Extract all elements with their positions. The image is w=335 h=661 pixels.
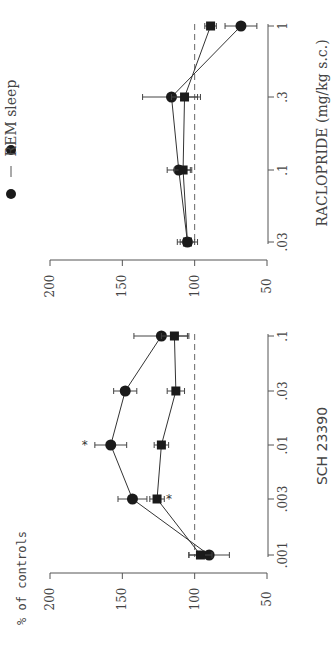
square-marker-icon [206,22,215,31]
circle-marker-icon [120,386,131,397]
legend-label: REM sleep [3,80,19,157]
square-marker-icon [171,387,180,396]
value-tick-label: 50 [260,591,274,606]
sch-axis-title: SCH 23390 [314,407,330,485]
square-marker-icon [180,93,189,102]
dose-tick-label: .1 [276,164,290,175]
raclopride-axis-title: RACLOPRIDE (mg/kg s.c.) [314,39,330,226]
square-marker-icon [157,441,166,450]
circle-marker-icon [235,21,246,32]
value-tick-label: 150 [115,275,129,298]
square-marker-icon [170,332,179,341]
legend-marker-icon [6,189,16,199]
sch23390-panel: 20015010050.001.003.01.03.1** [43,330,290,610]
circle-marker-icon [105,440,116,451]
value-tick-label: 200 [43,275,57,298]
dose-tick-label: .03 [276,381,290,400]
dose-tick-label: .001 [276,542,290,569]
dose-tick-label: .1 [276,330,290,341]
dose-tick-label: .01 [276,435,290,454]
legend: REM sleep [3,80,19,199]
series-line-square [183,26,210,242]
significance-star: * [166,492,172,506]
dose-tick-label: .03 [276,232,290,251]
circle-marker-icon [127,494,138,505]
square-marker-icon [196,551,205,560]
series-line-circle [172,26,241,242]
significance-star: * [82,438,88,452]
y-axis-title: % of controls [15,531,29,625]
value-tick-label: 100 [188,588,202,611]
value-tick-label: 200 [43,588,57,611]
square-marker-icon [153,495,162,504]
value-tick-label: 100 [188,275,202,298]
value-tick-label: 150 [115,588,129,611]
dose-tick-label: .3 [276,91,290,102]
raclopride-panel: 20015010050.03.1.31 [43,21,290,298]
chart-figure: REM sleep 20015010050.03.1.31 2001501005… [0,0,335,661]
dose-tick-label: .003 [276,486,290,513]
value-tick-label: 50 [260,278,274,293]
square-marker-icon [179,166,188,175]
square-marker-icon [183,238,192,247]
dose-tick-label: 1 [276,22,290,30]
